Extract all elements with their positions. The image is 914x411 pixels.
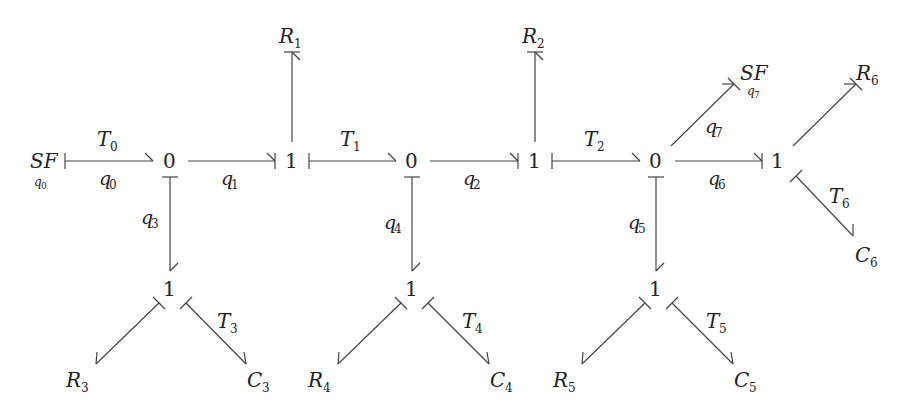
svg-text:7: 7 xyxy=(715,126,723,140)
bond-j1a-j0b xyxy=(309,153,396,169)
svg-text:6: 6 xyxy=(842,197,850,211)
bond-j1d-r3 xyxy=(96,297,165,364)
resistor-r3: R 3 xyxy=(65,368,89,395)
label-q1: q 1 xyxy=(221,167,239,192)
junction-1-e: 1 xyxy=(405,277,418,301)
bond-j1b-r2 xyxy=(527,52,543,142)
svg-text:R: R xyxy=(65,368,81,392)
source-flow-q7: SF q 7 xyxy=(740,61,769,100)
svg-text:1: 1 xyxy=(294,37,302,51)
svg-text:4: 4 xyxy=(323,381,331,395)
svg-text:2: 2 xyxy=(537,37,545,51)
svg-text:SF: SF xyxy=(30,149,59,173)
svg-text:C: C xyxy=(490,368,505,392)
bond-j0c-j1f xyxy=(648,177,664,271)
svg-text:3: 3 xyxy=(230,322,238,336)
bond-j1e-r4 xyxy=(338,297,407,364)
svg-text:4: 4 xyxy=(505,381,513,395)
svg-text:2: 2 xyxy=(473,178,481,192)
label-q6: q 6 xyxy=(708,167,726,192)
label-q3: q 3 xyxy=(141,206,159,231)
bond-j1c-r6 xyxy=(793,78,862,146)
svg-text:R: R xyxy=(855,61,871,85)
source-flow-q0: SF q 0 xyxy=(30,149,59,191)
junction-1-d: 1 xyxy=(163,277,176,301)
svg-text:6: 6 xyxy=(870,256,878,270)
svg-text:0: 0 xyxy=(109,178,117,192)
svg-text:5: 5 xyxy=(568,381,576,395)
label-q2: q 2 xyxy=(463,167,481,192)
svg-text:R: R xyxy=(552,368,568,392)
junction-0-b: 0 xyxy=(405,149,418,173)
svg-text:R: R xyxy=(307,368,323,392)
capacitor-c4: C 4 xyxy=(490,368,513,395)
label-t0: T 0 xyxy=(97,127,118,154)
svg-text:7: 7 xyxy=(754,90,760,100)
svg-text:1: 1 xyxy=(231,178,239,192)
label-t2: T 2 xyxy=(584,127,605,154)
svg-text:3: 3 xyxy=(81,381,89,395)
label-t5: T 5 xyxy=(706,309,727,336)
svg-text:6: 6 xyxy=(718,178,726,192)
label-t1: T 1 xyxy=(340,127,361,154)
bond-j0b-j1e xyxy=(404,177,420,271)
capacitor-c5: C 5 xyxy=(734,368,757,395)
resistor-r5: R 5 xyxy=(552,368,576,395)
resistor-r1: R 1 xyxy=(278,24,302,51)
junction-1-a: 1 xyxy=(285,149,298,173)
svg-text:3: 3 xyxy=(151,217,159,231)
svg-text:4: 4 xyxy=(475,322,483,336)
svg-text:R: R xyxy=(521,24,537,48)
svg-text:5: 5 xyxy=(749,381,757,395)
svg-text:R: R xyxy=(278,24,294,48)
junction-1-b: 1 xyxy=(528,149,541,173)
capacitor-c3: C 3 xyxy=(247,368,270,395)
junction-0-a: 0 xyxy=(163,149,176,173)
bond-j1a-r1 xyxy=(284,52,300,142)
bond-j1f-r5 xyxy=(582,297,651,364)
svg-text:6: 6 xyxy=(871,74,879,88)
svg-text:5: 5 xyxy=(638,222,646,236)
resistor-r2: R 2 xyxy=(521,24,545,51)
bond-graph-diagram: SF q 0 0 1 0 1 0 1 1 1 1 R 1 R 2 R 3 C 3… xyxy=(0,0,914,411)
svg-text:5: 5 xyxy=(719,322,727,336)
junction-1-c: 1 xyxy=(771,149,784,173)
svg-text:C: C xyxy=(247,368,262,392)
svg-text:C: C xyxy=(734,368,749,392)
svg-text:1: 1 xyxy=(353,140,361,154)
bond-j1b-j0c xyxy=(552,153,640,169)
resistor-r6: R 6 xyxy=(855,61,879,88)
svg-text:3: 3 xyxy=(262,381,270,395)
bond-j0a-j1d xyxy=(162,177,178,271)
label-q0: q 0 xyxy=(99,167,117,192)
label-q4: q 4 xyxy=(384,211,402,236)
svg-text:SF: SF xyxy=(740,61,769,85)
svg-text:0: 0 xyxy=(110,140,118,154)
capacitor-c6: C 6 xyxy=(855,243,878,270)
junction-1-f: 1 xyxy=(649,277,662,301)
label-t4: T 4 xyxy=(462,309,483,336)
svg-text:C: C xyxy=(855,243,870,267)
junction-0-c: 0 xyxy=(649,149,662,173)
label-t6: T 6 xyxy=(829,184,850,211)
svg-text:4: 4 xyxy=(394,222,402,236)
svg-text:2: 2 xyxy=(597,140,605,154)
resistor-r4: R 4 xyxy=(307,368,331,395)
svg-text:0: 0 xyxy=(41,181,47,191)
label-q5: q 5 xyxy=(628,211,646,236)
label-t3: T 3 xyxy=(217,309,238,336)
label-q7: q 7 xyxy=(705,115,723,140)
